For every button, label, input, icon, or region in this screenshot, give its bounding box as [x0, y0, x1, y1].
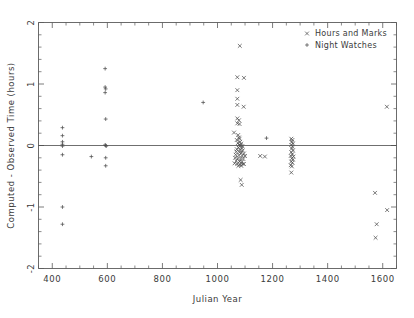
data-point: [61, 222, 65, 226]
data-point: [237, 153, 241, 157]
legend-label: Hours and Marks: [315, 29, 387, 38]
legend-marker-x: [305, 32, 309, 36]
data-point: [235, 97, 239, 101]
data-point: [104, 164, 108, 168]
series-hours-and-marks: [232, 44, 389, 240]
data-point: [235, 103, 239, 107]
data-points: [61, 44, 389, 240]
y-axis-title: Computed - Observed Time (hours): [6, 62, 16, 228]
data-point: [104, 87, 108, 91]
data-point: [289, 171, 293, 175]
data-point: [201, 101, 205, 105]
data-point: [103, 67, 107, 71]
scatter-plot-figure: 4006008001000120014001600210-1-2 Hours a…: [0, 0, 414, 318]
data-point: [263, 155, 267, 159]
x-axis-title: Julian Year: [192, 294, 242, 304]
data-point: [103, 85, 107, 89]
data-point: [239, 178, 243, 182]
data-point: [374, 236, 378, 240]
legend-label: Night Watches: [315, 41, 377, 50]
data-point: [265, 136, 269, 140]
data-point: [235, 88, 239, 92]
tick-labels: 4006008001000120014001600210-1-2: [26, 19, 395, 283]
data-point: [104, 144, 108, 148]
data-point: [104, 156, 108, 160]
x-tick-label: 1200: [261, 274, 285, 284]
data-point: [61, 126, 65, 130]
data-point: [258, 154, 262, 158]
legend-marker-plus: [305, 43, 309, 47]
x-tick-label: 400: [43, 274, 61, 284]
data-point: [103, 91, 107, 95]
data-point: [240, 183, 244, 187]
data-point: [235, 75, 239, 79]
y-tick-label: -2: [26, 264, 36, 274]
data-point: [89, 155, 93, 159]
data-point: [104, 117, 108, 121]
data-point: [61, 205, 65, 209]
data-point: [385, 105, 389, 109]
legend-item-night-watches: Night Watches: [305, 41, 377, 50]
data-point: [375, 222, 379, 226]
data-point: [61, 153, 65, 157]
data-point: [373, 191, 377, 195]
data-point: [232, 131, 236, 135]
legend: Hours and MarksNight Watches: [305, 29, 387, 50]
data-point: [290, 165, 294, 169]
y-tick-label: 0: [26, 142, 36, 148]
y-tick-label: 2: [26, 19, 36, 25]
data-point: [61, 144, 65, 148]
data-point: [385, 208, 389, 212]
legend-item-hours-and-marks: Hours and Marks: [305, 29, 387, 38]
x-tick-label: 800: [153, 274, 171, 284]
y-tick-label: -1: [26, 202, 36, 212]
x-tick-label: 1600: [371, 274, 395, 284]
x-tick-label: 1400: [316, 274, 340, 284]
plot-canvas: 4006008001000120014001600210-1-2 Hours a…: [0, 0, 414, 318]
data-point: [242, 105, 246, 109]
x-tick-label: 600: [98, 274, 116, 284]
data-point: [61, 134, 65, 138]
data-point: [242, 76, 246, 80]
data-point: [238, 44, 242, 48]
axis-titles: Julian YearComputed - Observed Time (hou…: [6, 62, 242, 303]
y-tick-label: 1: [26, 81, 36, 87]
x-tick-label: 1000: [205, 274, 229, 284]
